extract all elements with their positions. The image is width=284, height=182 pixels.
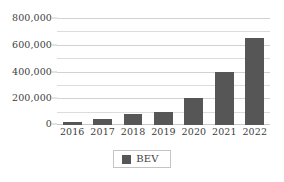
bar-slot-2017 <box>87 18 117 125</box>
bar-slot-2019 <box>148 18 178 125</box>
bar-bev-2018[interactable] <box>124 114 143 125</box>
y-axis: 800,000 600,000 400,000 200,000 0 <box>0 18 52 125</box>
x-axis: 2016 2017 2018 2019 2020 2021 2022 <box>57 127 270 137</box>
legend: BEV <box>0 150 284 168</box>
x-tick-label-2017: 2017 <box>87 127 117 137</box>
legend-swatch-bev-icon <box>122 155 131 164</box>
bar-bev-2021[interactable] <box>215 72 234 126</box>
bar-slot-2022 <box>240 18 270 125</box>
y-tick-label-800000: 800,000 <box>12 13 52 23</box>
x-tick-label-2022: 2022 <box>240 127 270 137</box>
y-tick-label-600000: 600,000 <box>12 40 52 50</box>
y-tick-label-200000: 200,000 <box>12 94 52 104</box>
x-tick-label-2020: 2020 <box>179 127 209 137</box>
bar-slot-2020 <box>179 18 209 125</box>
x-tick-label-2018: 2018 <box>118 127 148 137</box>
bar-chart-figure: 800,000 600,000 400,000 200,000 0 <box>0 0 284 182</box>
bar-bev-2019[interactable] <box>154 112 173 125</box>
bar-bev-2016[interactable] <box>63 122 82 125</box>
bar-slot-2021 <box>209 18 239 125</box>
bar-bev-2017[interactable] <box>93 119 112 125</box>
bars-layer <box>57 18 270 125</box>
x-tick-label-2021: 2021 <box>209 127 239 137</box>
x-tick-label-2016: 2016 <box>57 127 87 137</box>
legend-box[interactable]: BEV <box>113 150 170 168</box>
bar-bev-2022[interactable] <box>245 38 264 125</box>
x-tick-label-2019: 2019 <box>148 127 178 137</box>
bar-slot-2018 <box>118 18 148 125</box>
legend-label-bev: BEV <box>136 154 158 164</box>
bar-slot-2016 <box>57 18 87 125</box>
y-tick-label-400000: 400,000 <box>12 67 52 77</box>
bar-bev-2020[interactable] <box>184 98 203 125</box>
